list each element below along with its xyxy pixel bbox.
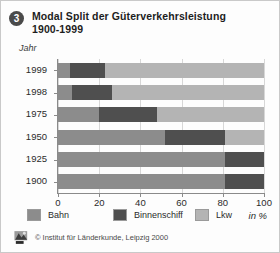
- bar-row: [58, 107, 264, 122]
- y-axis-tick-label: 1925: [0, 153, 47, 164]
- chart-card: 3 Modal Split der Güterverkehrsleistung …: [0, 0, 280, 253]
- copyright-text: © Institut für Länderkunde, Leipzig 2000: [35, 233, 168, 242]
- bar-segment-lkw: [105, 63, 264, 78]
- legend-swatch-lkw: [195, 209, 209, 221]
- x-axis-tick-label: 20: [94, 197, 105, 208]
- bar-row: [58, 174, 264, 189]
- bar-segment-bahn: [58, 130, 165, 145]
- x-axis-tick-label: 40: [135, 197, 146, 208]
- x-unit-label: in %: [249, 210, 267, 221]
- bar-segment-lkw: [112, 85, 264, 100]
- legend-item-label: Bahn: [48, 210, 69, 220]
- y-axis-tick-label: 1999: [0, 64, 47, 75]
- bar-row: [58, 63, 264, 78]
- legend-item[interactable]: Lkw: [195, 209, 232, 221]
- bar-segment-binnenschiff: [70, 63, 105, 78]
- y-axis-tick-label: 1975: [0, 108, 47, 119]
- bar-segment-bahn: [58, 174, 225, 189]
- y-axis-tick-label: 1900: [0, 175, 47, 186]
- chart-header: 3 Modal Split der Güterverkehrsleistung …: [9, 10, 273, 35]
- figure-number-badge: 3: [9, 11, 24, 26]
- x-axis-tick-label: 0: [55, 197, 60, 208]
- y-axis-tick-label: 1950: [0, 131, 47, 142]
- bar-row: [58, 152, 264, 167]
- bar-row: [58, 130, 264, 145]
- bar-segment-lkw: [225, 130, 264, 145]
- ifl-logo-icon: [13, 229, 30, 246]
- legend-swatch-bahn: [27, 209, 41, 221]
- bar-rows: [58, 59, 264, 193]
- bar-segment-binnenschiff: [165, 130, 225, 145]
- legend-item-label: Binnenschiff: [134, 210, 183, 220]
- bar-segment-bahn: [58, 152, 225, 167]
- bar-segment-bahn: [58, 85, 72, 100]
- chart-title-line1: Modal Split der Güterverkehrsleistung: [32, 10, 226, 22]
- legend-item[interactable]: Binnenschiff: [113, 209, 183, 221]
- chart-legend: LkwBinnenschiffBahn in %: [27, 209, 273, 225]
- x-axis-tick-labels: 020406080100: [58, 197, 264, 209]
- chart-title-line2: 1900-1999: [32, 23, 226, 36]
- y-axis-tick-label: 1998: [0, 86, 47, 97]
- bar-row: [58, 85, 264, 100]
- x-axis-tick-label: 80: [218, 197, 229, 208]
- y-axis-labels: 199919981975195019251900: [1, 59, 53, 193]
- legend-item-label: Lkw: [216, 210, 232, 220]
- bar-segment-bahn: [58, 107, 99, 122]
- bar-segment-binnenschiff: [99, 107, 157, 122]
- chart-footer: © Institut für Länderkunde, Leipzig 2000: [13, 229, 273, 246]
- plot-area: [58, 59, 264, 193]
- gridline: [264, 59, 265, 193]
- legend-swatch-binnenschiff: [113, 209, 127, 221]
- bar-segment-binnenschiff: [225, 174, 264, 189]
- x-axis-tick-label: 100: [256, 197, 272, 208]
- bar-segment-bahn: [58, 63, 70, 78]
- page-title: Modal Split der Güterverkehrsleistung 19…: [32, 10, 226, 35]
- x-axis-tick-label: 60: [176, 197, 187, 208]
- bar-segment-binnenschiff: [72, 85, 111, 100]
- y-axis-title: Jahr: [19, 43, 37, 53]
- bar-segment-binnenschiff: [225, 152, 264, 167]
- legend-item[interactable]: Bahn: [27, 209, 69, 221]
- bar-segment-lkw: [157, 107, 264, 122]
